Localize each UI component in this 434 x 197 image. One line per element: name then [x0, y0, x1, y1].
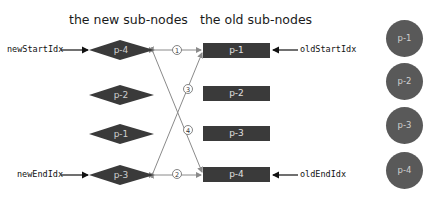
new-node-label-4: p-3 [90, 165, 152, 185]
dom-node-4: p-4 [386, 152, 423, 189]
old-end-idx-label: oldEndIdx [300, 169, 346, 179]
old-node-2: p-2 [203, 86, 270, 101]
svg-text:3: 3 [186, 86, 190, 94]
old-node-4: p-4 [203, 167, 270, 182]
svg-text:2: 2 [175, 171, 179, 179]
old-node-1: p-1 [203, 43, 270, 58]
svg-text:4: 4 [186, 127, 190, 135]
step-marker-2: 2 [173, 170, 182, 179]
new-node-label-2: p-2 [90, 85, 152, 105]
new-start-idx-label: newStartIdx [7, 44, 63, 54]
new-end-idx-label: newEndIdx [17, 169, 63, 179]
old-start-idx-label: oldStartIdx [300, 44, 356, 54]
svg-text:1: 1 [175, 47, 179, 55]
new-node-label-3: p-1 [90, 124, 152, 144]
dom-node-1: p-1 [386, 20, 423, 57]
step-marker-3: 3 [184, 85, 193, 94]
old-node-3: p-3 [203, 126, 270, 141]
new-node-label-1: p-4 [90, 40, 152, 60]
dom-node-2: p-2 [386, 63, 423, 100]
dom-node-3: p-3 [386, 107, 423, 144]
step-marker-4: 4 [184, 126, 193, 135]
step-marker-1: 1 [173, 46, 182, 55]
